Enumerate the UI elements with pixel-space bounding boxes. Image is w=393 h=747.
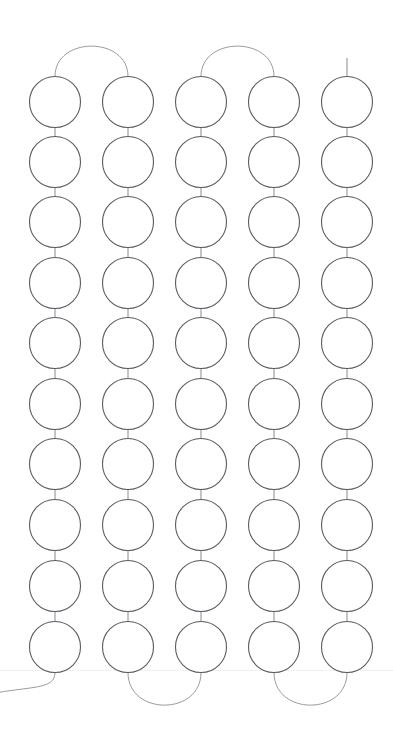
node-circle[interactable] — [322, 197, 373, 248]
bottom-arc-group — [128, 673, 347, 706]
node-circle[interactable] — [30, 197, 81, 248]
node-circle[interactable] — [176, 137, 227, 188]
node-circle[interactable] — [322, 561, 373, 612]
node-circle[interactable] — [176, 318, 227, 369]
node-circle[interactable] — [30, 439, 81, 490]
node-circle[interactable] — [249, 258, 300, 309]
node-circle[interactable] — [176, 197, 227, 248]
node-circle[interactable] — [249, 622, 300, 673]
node-circle[interactable] — [322, 379, 373, 430]
node-circle[interactable] — [322, 439, 373, 490]
node-circle[interactable] — [103, 197, 154, 248]
node-circle[interactable] — [176, 379, 227, 430]
node-circle[interactable] — [176, 622, 227, 673]
node-circle[interactable] — [249, 500, 300, 551]
bottom-arc-col2-col3 — [128, 673, 201, 706]
node-circle[interactable] — [249, 561, 300, 612]
top-arc-group — [55, 46, 274, 76]
node-circle[interactable] — [322, 77, 373, 128]
top-arc-col3-col4 — [201, 46, 274, 76]
node-circle[interactable] — [176, 439, 227, 490]
node-circle[interactable] — [249, 137, 300, 188]
serpentine-chain-diagram — [0, 0, 393, 747]
node-circle[interactable] — [322, 500, 373, 551]
bottom-arc-col4-col5 — [274, 673, 347, 706]
node-circle[interactable] — [103, 439, 154, 490]
node-circle[interactable] — [30, 561, 81, 612]
bottom-lead-curve — [0, 673, 55, 695]
node-circle[interactable] — [30, 622, 81, 673]
node-circle[interactable] — [249, 439, 300, 490]
node-circle[interactable] — [103, 77, 154, 128]
node-circle[interactable] — [322, 622, 373, 673]
node-circle[interactable] — [103, 318, 154, 369]
node-circle[interactable] — [249, 197, 300, 248]
node-circle[interactable] — [30, 379, 81, 430]
node-circle[interactable] — [322, 258, 373, 309]
node-circle[interactable] — [30, 258, 81, 309]
node-circle[interactable] — [322, 318, 373, 369]
node-circle[interactable] — [30, 77, 81, 128]
node-circle[interactable] — [103, 622, 154, 673]
node-circle[interactable] — [30, 500, 81, 551]
node-circle[interactable] — [249, 379, 300, 430]
node-circle[interactable] — [176, 77, 227, 128]
node-circle[interactable] — [30, 318, 81, 369]
node-circle[interactable] — [103, 379, 154, 430]
node-circle[interactable] — [103, 500, 154, 551]
node-circle[interactable] — [249, 318, 300, 369]
node-circle[interactable] — [103, 561, 154, 612]
diagram-canvas — [0, 0, 393, 747]
node-circle[interactable] — [30, 137, 81, 188]
node-circle[interactable] — [176, 500, 227, 551]
top-arc-col1-col2 — [55, 46, 128, 76]
node-circle[interactable] — [322, 137, 373, 188]
node-circle[interactable] — [249, 77, 300, 128]
node-circle[interactable] — [176, 561, 227, 612]
node-circle[interactable] — [176, 258, 227, 309]
node-circle[interactable] — [103, 258, 154, 309]
node-circle[interactable] — [103, 137, 154, 188]
